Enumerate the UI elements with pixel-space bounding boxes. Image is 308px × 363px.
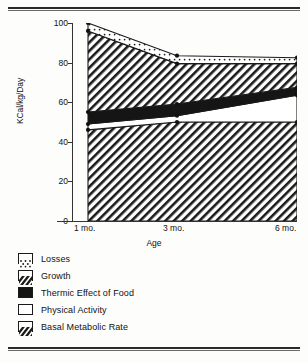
figure-frame: KCal/kg/Day 100 80 60 40 20 0 [0,0,308,363]
x-tick-label-3mo: 3 mo. [163,224,184,233]
top-rule [8,7,300,11]
legend-label: Basal Metabolic Rate [41,322,128,332]
x-axis-line [57,221,297,222]
plot-region [73,23,297,221]
bottom-rule [8,347,300,351]
series-area-basal-metabolic-rate [88,122,297,221]
legend-swatch-hatch-icon [18,321,33,332]
chart-area: KCal/kg/Day 100 80 60 40 20 0 [0,18,308,240]
legend-swatch-black-icon [18,287,33,298]
legend-label: Growth [41,271,71,281]
chart-legend: Losses Growth Thermic Effect of Food Phy… [18,250,288,335]
y-tick-label: 80 [34,59,68,68]
x-tick-label-1mo: 1 mo. [74,224,95,233]
y-tick-label: 60 [34,98,68,107]
legend-swatch-white-icon [18,304,33,315]
legend-item-physical-activity: Physical Activity [18,301,288,318]
y-axis-title: KCal/kg/Day [15,53,25,149]
legend-item-losses: Losses [18,250,288,267]
y-axis-tick-labels: 100 80 60 40 20 0 [34,18,68,240]
legend-label: Physical Activity [41,305,107,315]
legend-item-growth: Growth [18,267,288,284]
y-tick-label: 100 [34,19,68,28]
y-tick-label: 20 [34,177,68,186]
legend-item-basal-metabolic-rate: Basal Metabolic Rate [18,318,288,335]
y-tick-label: 40 [34,138,68,147]
x-axis-title: Age [0,238,308,248]
legend-label: Thermic Effect of Food [41,288,134,298]
x-tick-label-6mo: 6 mo. [275,224,296,233]
legend-swatch-dotted-icon [18,253,33,264]
legend-label: Losses [41,254,70,264]
legend-item-thermic-effect-of-food: Thermic Effect of Food [18,284,288,301]
legend-swatch-hatch-icon [18,270,33,281]
